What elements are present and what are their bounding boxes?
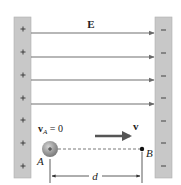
negative-plate [155, 17, 172, 178]
charged-particle [42, 141, 58, 157]
distance-label: d [92, 170, 98, 182]
parallel-plate-diagram: E vA = 0 v A B d [0, 0, 181, 185]
point-b-label: B [146, 147, 153, 159]
point-b-marker [140, 147, 144, 151]
electric-field-lines [31, 33, 154, 104]
point-a-label: A [36, 155, 44, 167]
positive-plate [14, 17, 31, 178]
velocity-label: v [133, 120, 139, 132]
field-label: E [87, 18, 94, 30]
initial-velocity-label: vA = 0 [38, 123, 63, 136]
